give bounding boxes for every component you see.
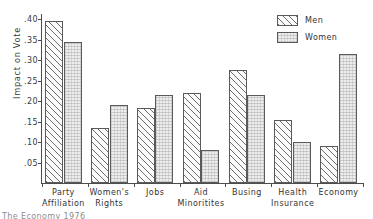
bar-chart: Impact on Vote .40.35.30.25.20.15.10.05 … (0, 0, 373, 219)
x-tick-mark (134, 183, 135, 187)
bar (183, 93, 201, 183)
bar (64, 42, 82, 183)
x-tick-mark (88, 183, 89, 187)
y-tick-label: .25 (24, 76, 38, 85)
y-tick-label: .20 (24, 97, 38, 106)
y-tick-label: .40 (24, 15, 38, 24)
bar (155, 95, 173, 183)
legend-item: Women (277, 30, 337, 44)
legend-label: Women (305, 33, 337, 42)
bar (339, 54, 357, 183)
bar (91, 128, 109, 183)
figure-caption: The Economy 1976 (2, 212, 86, 219)
x-category-label: AidMinoritites (177, 188, 224, 209)
y-axis-tick-labels: .40.35.30.25.20.15.10.05 (0, 0, 46, 219)
bar (45, 21, 63, 183)
x-category-label: HealthInsurance (271, 188, 314, 209)
bar (137, 108, 155, 183)
x-tick-mark (317, 183, 318, 187)
bar (110, 105, 128, 183)
legend-swatch-men (277, 15, 298, 26)
x-category-label: Jobs (146, 188, 164, 199)
legend-item: Men (277, 13, 337, 27)
bar (274, 120, 292, 184)
y-tick-label: .35 (24, 35, 38, 44)
x-category-label: Busing (232, 188, 262, 199)
x-tick-mark (271, 183, 272, 187)
bar (201, 150, 219, 183)
x-category-label: Women'sRights (89, 188, 129, 209)
x-axis-line (41, 183, 363, 184)
y-tick-label: .15 (24, 117, 38, 126)
x-tick-mark (363, 183, 364, 187)
y-tick-label: .30 (24, 56, 38, 65)
legend-label: Men (305, 16, 323, 25)
legend-swatch-women (277, 32, 298, 43)
x-tick-mark (225, 183, 226, 187)
y-tick-label: .05 (24, 158, 38, 167)
x-tick-mark (42, 183, 43, 187)
x-category-label: PartyAffiliation (42, 188, 85, 209)
x-tick-mark (180, 183, 181, 187)
bar (320, 146, 338, 183)
bar (247, 95, 265, 183)
bar (229, 70, 247, 183)
bar (293, 142, 311, 183)
x-category-label: Economy (319, 188, 359, 199)
y-tick-label: .10 (24, 138, 38, 147)
legend: MenWomen (277, 13, 337, 47)
